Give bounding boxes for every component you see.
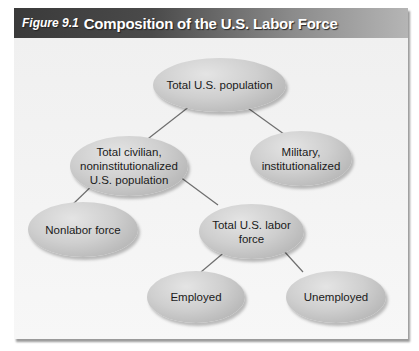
node-label: Employed — [170, 290, 221, 304]
node-label: Total U.S. population — [166, 78, 272, 92]
node-label-line: noninstitutionalized — [80, 159, 178, 173]
node-unemployed: Unemployed — [286, 271, 386, 323]
node-total-population: Total U.S. population — [153, 58, 286, 112]
node-label-line: Military, — [282, 145, 321, 159]
node-label: Unemployed — [304, 290, 369, 304]
node-employed: Employed — [147, 271, 245, 323]
node-military-institutionalized: Military, institutionalized — [250, 131, 352, 186]
node-label: Nonlabor force — [45, 223, 120, 237]
node-label-line: Total civilian, — [96, 145, 161, 159]
node-label-line: force — [239, 232, 265, 246]
edge-laborforce-unemployed — [283, 250, 303, 272]
node-label-line: U.S. population — [90, 173, 169, 187]
node-civilian-population: Total civilian, noninstitutionalized U.S… — [70, 136, 188, 196]
node-label-line: Total U.S. labor — [212, 218, 291, 232]
node-label-line: institutionalized — [262, 159, 341, 173]
node-nonlabor-force: Nonlabor force — [28, 202, 138, 257]
node-labor-force: Total U.S. labor force — [199, 204, 304, 259]
